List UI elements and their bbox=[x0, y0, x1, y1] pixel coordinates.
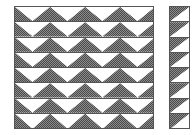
pattern-row bbox=[15, 99, 153, 114]
half-triangle-right bbox=[138, 83, 154, 97]
triangle-peak bbox=[33, 99, 68, 113]
half-triangle-right bbox=[138, 7, 154, 21]
figure-root bbox=[0, 0, 196, 135]
narrow-pattern-panel bbox=[169, 6, 190, 129]
pattern-row bbox=[15, 22, 153, 37]
pattern-row bbox=[170, 83, 189, 98]
triangle-peak bbox=[68, 7, 103, 21]
triangle-peak bbox=[68, 22, 103, 36]
pattern-row bbox=[170, 99, 189, 114]
triangle-peak bbox=[68, 38, 103, 52]
wide-pattern-panel bbox=[14, 6, 154, 129]
upper-left-triangle bbox=[170, 7, 189, 21]
triangle-peak bbox=[103, 38, 138, 52]
half-triangle-right bbox=[138, 53, 154, 67]
upper-left-triangle bbox=[170, 68, 189, 82]
pattern-row bbox=[170, 53, 189, 68]
triangle-peak bbox=[103, 22, 138, 36]
half-triangle-left bbox=[15, 38, 33, 52]
half-triangle-right bbox=[138, 114, 154, 129]
pattern-row bbox=[170, 38, 189, 53]
pattern-row bbox=[15, 68, 153, 83]
triangle-peak bbox=[103, 7, 138, 21]
triangle-peak bbox=[33, 7, 68, 21]
half-triangle-left bbox=[15, 68, 33, 82]
triangle-peak bbox=[33, 38, 68, 52]
pattern-row bbox=[15, 7, 153, 22]
upper-left-triangle bbox=[170, 114, 189, 129]
triangle-peak bbox=[103, 99, 138, 113]
half-triangle-left bbox=[15, 99, 33, 113]
pattern-row bbox=[170, 114, 189, 129]
half-triangle-right bbox=[138, 38, 154, 52]
upper-left-triangle bbox=[170, 53, 189, 67]
pattern-row bbox=[15, 83, 153, 98]
half-triangle-right bbox=[138, 99, 154, 113]
half-triangle-left bbox=[15, 53, 33, 67]
triangle-peak bbox=[68, 99, 103, 113]
half-triangle-left bbox=[15, 7, 33, 21]
triangle-peak bbox=[33, 114, 68, 129]
half-triangle-right bbox=[138, 68, 154, 82]
triangle-peak bbox=[68, 53, 103, 67]
triangle-peak bbox=[33, 53, 68, 67]
pattern-row bbox=[170, 7, 189, 22]
upper-left-triangle bbox=[170, 99, 189, 113]
half-triangle-left bbox=[15, 83, 33, 97]
triangle-peak bbox=[33, 22, 68, 36]
triangle-peak bbox=[33, 83, 68, 97]
half-triangle-left bbox=[15, 22, 33, 36]
upper-left-triangle bbox=[170, 38, 189, 52]
upper-left-triangle bbox=[170, 83, 189, 97]
triangle-peak bbox=[103, 53, 138, 67]
triangle-peak bbox=[68, 83, 103, 97]
triangle-peak bbox=[68, 114, 103, 129]
half-triangle-left bbox=[15, 114, 33, 129]
triangle-peak bbox=[103, 83, 138, 97]
pattern-row bbox=[15, 38, 153, 53]
triangle-peak bbox=[33, 68, 68, 82]
pattern-row bbox=[170, 22, 189, 37]
half-triangle-right bbox=[138, 22, 154, 36]
pattern-row bbox=[15, 53, 153, 68]
triangle-peak bbox=[103, 114, 138, 129]
upper-left-triangle bbox=[170, 22, 189, 36]
pattern-row bbox=[170, 68, 189, 83]
pattern-row bbox=[15, 114, 153, 129]
triangle-peak bbox=[68, 68, 103, 82]
triangle-peak bbox=[103, 68, 138, 82]
